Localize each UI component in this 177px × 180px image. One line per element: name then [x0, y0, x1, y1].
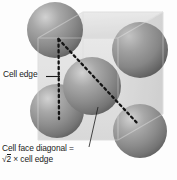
square-root-radicand: 2 — [7, 154, 12, 164]
cell-face-diagonal-label-line1: Cell face diagonal = — [2, 143, 74, 154]
sphere-bottom-right — [113, 104, 167, 158]
fcc-unit-cell-figure: Cell edge Cell face diagonal = √2 × cell… — [0, 0, 177, 180]
cell-face-diagonal-label-line2: √2 × cell edge — [2, 154, 74, 165]
sphere-top-right — [112, 22, 168, 78]
cell-edge-label: Cell edge — [3, 69, 38, 80]
sphere-center-face — [63, 57, 121, 115]
sphere-top-left — [27, 2, 83, 58]
cell-edge-dashed-line — [59, 39, 60, 119]
square-root-symbol: √ — [2, 154, 7, 165]
cell-face-diagonal-label-tail: × cell edge — [13, 154, 53, 164]
cell-face-diagonal-label: Cell face diagonal = √2 × cell edge — [2, 143, 74, 164]
